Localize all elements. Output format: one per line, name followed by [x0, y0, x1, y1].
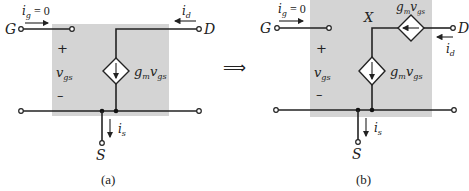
source-current-label: is: [374, 121, 382, 137]
source-label: S: [352, 146, 362, 162]
drain-current-label: id: [446, 42, 455, 58]
source-terminal: [356, 140, 361, 145]
minus-sign: –: [316, 87, 323, 102]
node-x-label: X: [363, 10, 374, 25]
drain-current-label: id: [182, 4, 191, 20]
gate-terminal: [19, 27, 24, 32]
right-ground-terminal: [452, 108, 457, 113]
gate-current-label: ig = 0: [22, 4, 50, 20]
drain-terminal: [197, 27, 202, 32]
plus-sign: +: [316, 41, 327, 56]
drain-label: D: [457, 20, 469, 36]
drain-label: D: [203, 21, 215, 37]
drain-terminal: [451, 26, 456, 31]
gate-internal-node: [70, 27, 75, 32]
minus-sign: –: [57, 88, 64, 103]
source-terminal: [100, 141, 105, 146]
source-current-label: is: [118, 122, 126, 138]
gate-label: G: [5, 21, 16, 37]
junction-node: [114, 109, 119, 114]
right-ground-terminal: [197, 109, 202, 114]
gate-terminal: [275, 26, 280, 31]
plus-sign: +: [57, 41, 68, 56]
junction-node: [370, 108, 375, 113]
gate-label: G: [260, 20, 271, 36]
gate-internal-node: [327, 26, 332, 31]
left-ground-terminal: [274, 108, 279, 113]
panel-b: G ig = 0 X gmvgs D id gmvgs + vgs: [260, 0, 469, 187]
circuit-figure: G ig = 0 D id gmvgs + vgs –: [0, 0, 469, 191]
left-ground-terminal: [19, 109, 24, 114]
panel-a: G ig = 0 D id gmvgs + vgs –: [5, 4, 215, 187]
gate-current-label: ig = 0: [278, 2, 306, 18]
implies-arrow-icon: ⟹: [223, 58, 246, 77]
caption-b: (b): [356, 172, 371, 187]
source-label: S: [96, 147, 106, 163]
caption-a: (a): [101, 172, 115, 187]
